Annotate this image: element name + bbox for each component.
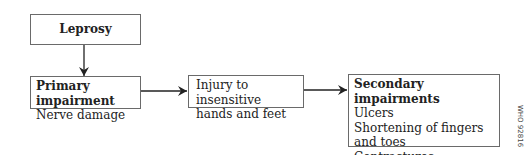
node-primary-title: Primary impairment [36,79,140,108]
node-primary-line: Nerve damage [36,108,140,123]
node-secondary-impairments: Secondary impairments Ulcers Shortening … [348,74,500,147]
node-injury: Injury to insensitive hands and feet [188,75,304,108]
node-secondary-line: Contractures [354,150,499,156]
node-injury-line: Injury to insensitive [196,78,303,107]
node-injury-line: hands and feet [196,107,303,122]
node-secondary-line: Shortening of fingers and toes [354,121,499,150]
node-primary-impairment: Primary impairment Nerve damage [30,76,141,109]
node-secondary-title: Secondary impairments [354,77,499,106]
node-leprosy: Leprosy [30,14,141,45]
node-secondary-line: Ulcers [354,106,499,121]
node-leprosy-label: Leprosy [59,22,112,37]
credit-label: WHO 92816 [516,105,524,147]
